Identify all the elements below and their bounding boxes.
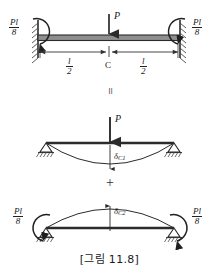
deflection-subscript: C1 bbox=[118, 154, 126, 161]
beam-member bbox=[38, 35, 180, 41]
left-pin-support-1 bbox=[37, 143, 55, 157]
figure-container: Pl 8 Pl 8 P l 2 C l 2 = P δC1 + bbox=[0, 0, 219, 276]
figure-caption: [그림 11.8] bbox=[0, 250, 219, 266]
moment-label-top-left: Pl 8 bbox=[9, 18, 19, 37]
equals-operator: = bbox=[102, 84, 118, 98]
moment-denominator: 8 bbox=[192, 28, 202, 37]
right-pin-support-1 bbox=[165, 143, 183, 157]
deflection-subscript: C2 bbox=[118, 209, 126, 216]
dimension-label-left: l 2 bbox=[66, 57, 73, 76]
moment-label-bottom-right: Pl 8 bbox=[192, 207, 202, 226]
moment-denominator: 8 bbox=[13, 217, 23, 226]
diagram-simply-supported-load bbox=[37, 117, 183, 169]
left-fixed-support bbox=[32, 20, 38, 63]
plus-operator: + bbox=[103, 175, 117, 191]
diagram-fixed-fixed-beam bbox=[32, 14, 186, 63]
deflection-label-1: δC1 bbox=[114, 152, 126, 162]
dimension-label-right: l 2 bbox=[140, 57, 147, 76]
center-point-label: C bbox=[105, 61, 111, 70]
load-label-middle: P bbox=[115, 114, 121, 124]
moment-label-bottom-left: Pl 8 bbox=[13, 207, 23, 226]
right-fixed-support bbox=[180, 20, 186, 63]
moment-label-top-right: Pl 8 bbox=[192, 18, 202, 37]
diagram-simply-supported-moments bbox=[33, 206, 187, 242]
dimension-denominator: 2 bbox=[66, 67, 73, 76]
moment-denominator: 8 bbox=[9, 28, 19, 37]
deflection-label-2: δC2 bbox=[114, 207, 126, 217]
moment-denominator: 8 bbox=[192, 217, 202, 226]
figure-drawing bbox=[0, 0, 219, 276]
dimension-denominator: 2 bbox=[140, 67, 147, 76]
load-label-top: P bbox=[114, 11, 120, 21]
dimension-line-group bbox=[40, 44, 178, 58]
